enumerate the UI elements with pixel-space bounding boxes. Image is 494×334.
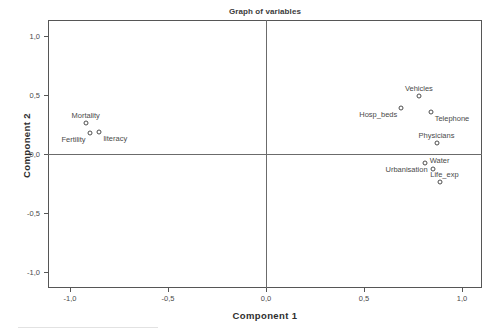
x-axis-tick-label: 1,0 — [457, 294, 467, 303]
x-axis-tick-label: 0,0 — [261, 294, 271, 303]
data-point-label: Life_exp — [430, 170, 458, 179]
data-point-label: Urbanisation — [385, 165, 427, 174]
y-axis-tick — [44, 272, 48, 273]
data-point-marker — [87, 130, 92, 135]
data-point-marker — [438, 180, 443, 185]
y-axis-tick-label: 1,0 — [2, 32, 40, 41]
data-point-marker — [97, 129, 102, 134]
data-point-label: Vehicles — [405, 84, 433, 93]
chart-screenshot: Graph of variables -1,0-0,50,00,51,01,00… — [0, 0, 494, 334]
x-axis-tick-label: -0,5 — [162, 294, 175, 303]
data-point-label: Fertility — [61, 135, 85, 144]
data-point-label: Telephone — [435, 114, 470, 123]
y-axis-tick — [44, 36, 48, 37]
data-point-marker — [416, 94, 421, 99]
x-axis-tick — [70, 288, 71, 292]
chart-title: Graph of variables — [48, 7, 482, 16]
data-point-label: Physicians — [419, 131, 455, 140]
data-point-marker — [83, 121, 88, 126]
x-axis-title: Component 1 — [48, 310, 482, 321]
x-axis-tick — [364, 288, 365, 292]
data-point-marker — [428, 109, 433, 114]
data-point-label: Mortality — [72, 111, 100, 120]
data-point-label: Hosp_beds — [359, 110, 397, 119]
data-point-marker — [399, 105, 404, 110]
x-axis-tick — [462, 288, 463, 292]
y-axis-title: Component 2 — [21, 66, 32, 226]
x-axis-tick — [266, 288, 267, 292]
y-axis-tick-label: -1,0 — [2, 268, 40, 277]
x-axis-tick-label: -1,0 — [64, 294, 77, 303]
x-axis-tick — [168, 288, 169, 292]
zero-line-horizontal — [48, 154, 482, 155]
y-axis-tick — [44, 213, 48, 214]
x-axis-tick-label: 0,5 — [359, 294, 369, 303]
data-point-marker — [434, 141, 439, 146]
scan-artifact — [18, 327, 158, 328]
data-point-label: Water — [430, 156, 450, 165]
y-axis-tick — [44, 95, 48, 96]
data-point-label: literacy — [103, 134, 127, 143]
y-axis-tick — [44, 154, 48, 155]
